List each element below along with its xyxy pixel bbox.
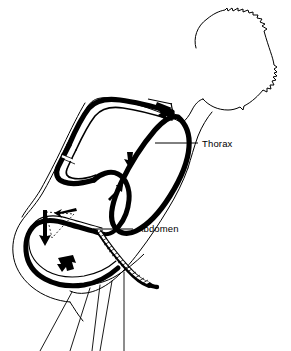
- anatomical-diagram: Thorax Abdomen: [0, 0, 291, 351]
- figure-canvas: Thorax Abdomen: [0, 0, 291, 351]
- abdominal-band-tip: [149, 285, 157, 287]
- abdomen-label: Abdomen: [137, 223, 179, 234]
- figure-background: [0, 0, 291, 351]
- thorax-label: Thorax: [202, 138, 233, 149]
